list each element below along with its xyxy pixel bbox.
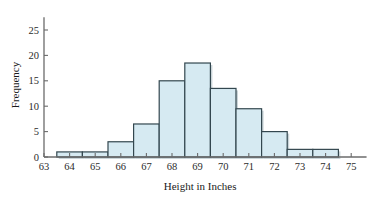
bar [236, 109, 262, 157]
x-tick-label: 75 [346, 161, 357, 172]
y-tick-label: 25 [29, 25, 40, 36]
histogram-chart: 051015202563646566676869707172737475Heig… [0, 0, 378, 199]
bar [185, 63, 211, 157]
x-tick-label: 74 [320, 161, 331, 172]
x-tick-label: 67 [141, 161, 152, 172]
bar [134, 124, 160, 157]
x-tick-label: 73 [295, 161, 306, 172]
y-tick-label: 15 [29, 75, 40, 86]
x-tick-label: 68 [167, 161, 178, 172]
bar [159, 81, 185, 157]
y-axis-ticks: 0510152025 [29, 25, 49, 163]
x-tick-label: 71 [244, 161, 255, 172]
x-axis-title: Height in Inches [164, 180, 237, 192]
bar [210, 88, 236, 157]
histogram-figure: 051015202563646566676869707172737475Heig… [0, 0, 378, 199]
y-axis-title: Frequency [9, 61, 21, 108]
bars-group [57, 63, 341, 159]
y-tick-label: 10 [29, 101, 40, 112]
x-tick-label: 70 [218, 161, 229, 172]
x-tick-label: 63 [39, 161, 50, 172]
x-tick-label: 72 [269, 161, 280, 172]
x-tick-label: 64 [64, 161, 75, 172]
x-tick-label: 65 [90, 161, 101, 172]
x-tick-label: 69 [192, 161, 203, 172]
y-tick-label: 20 [29, 50, 40, 61]
y-tick-label: 5 [34, 126, 39, 137]
x-tick-label: 66 [116, 161, 127, 172]
